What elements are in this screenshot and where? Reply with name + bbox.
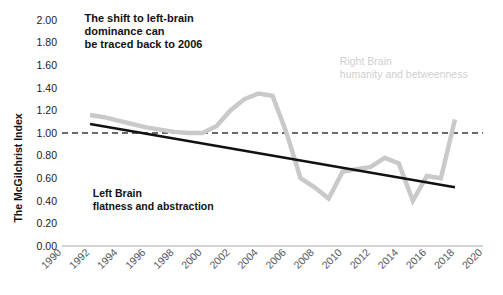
- y-tick-label: 1.40: [37, 82, 58, 94]
- chart-container: 0.000.200.400.600.801.001.201.401.601.80…: [0, 0, 503, 295]
- right-brain-annotation-line-1: humanity and betweenness: [340, 68, 468, 80]
- right-brain-annotation-line-0: Right Brain: [340, 55, 392, 67]
- y-tick-label: 1.80: [37, 36, 58, 48]
- y-tick-label: 0.60: [37, 172, 58, 184]
- y-tick-label: 0.80: [37, 149, 58, 161]
- y-tick-label: 0.40: [37, 195, 58, 207]
- title-annotation-line-0: The shift to left-brain: [84, 12, 194, 24]
- y-tick-label: 1.00: [37, 127, 58, 139]
- title-annotation-line-2: be traced back to 2006: [84, 38, 202, 50]
- y-axis-title: The McGilchrist Index: [12, 113, 24, 222]
- title-annotation-line-1: dominance can: [84, 25, 164, 37]
- left-brain-annotation-line-1: flatness and abstraction: [93, 200, 214, 212]
- y-tick-label: 1.20: [37, 104, 58, 116]
- y-tick-label: 1.60: [37, 59, 58, 71]
- mcgilchrist-index-line-chart: 0.000.200.400.600.801.001.201.401.601.80…: [0, 0, 503, 295]
- left-brain-annotation-line-0: Left Brain: [93, 187, 142, 199]
- y-tick-label: 0.20: [37, 217, 58, 229]
- y-tick-label: 2.00: [37, 14, 58, 26]
